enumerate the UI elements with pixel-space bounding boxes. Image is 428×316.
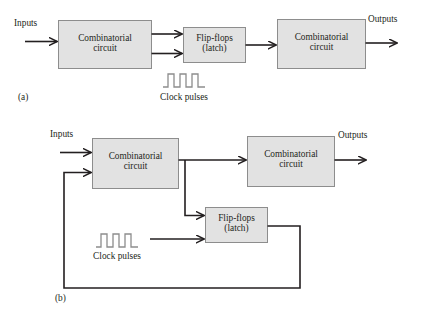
branch-comb1-to-ff-b: [185, 160, 204, 216]
box-combinatorial-circuit-b1: [93, 139, 179, 189]
clock-waveform-b: [96, 234, 138, 247]
diagram-canvas: [0, 0, 428, 316]
box-flip-flops-b: [206, 208, 268, 243]
diagram-b-group: [60, 137, 366, 289]
box-flip-flops-a: [184, 28, 246, 63]
clock-waveform-a: [163, 74, 205, 87]
box-combinatorial-circuit-b2: [248, 137, 335, 187]
figure-root: Combinatorial circuit Flip-flops (latch)…: [0, 0, 428, 316]
diagram-a-group: [25, 20, 397, 88]
box-combinatorial-circuit-a2: [278, 20, 366, 69]
box-combinatorial-circuit-a1: [59, 21, 152, 69]
